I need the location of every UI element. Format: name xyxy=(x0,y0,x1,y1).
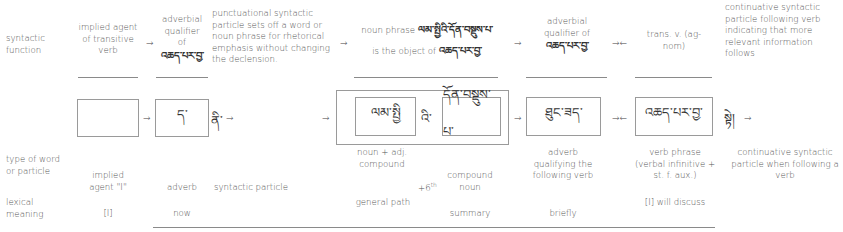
box-verb-will-discuss-text: འཆད་པར་བྱ་ xyxy=(645,98,703,135)
meaning-summary: summary xyxy=(440,208,500,220)
arrow-right-icon: → xyxy=(322,113,330,123)
function-noun-phrase-line1: noun phrase ལམ་སྤྱིའི་དོན་བསྡུས་པ་ xyxy=(352,24,502,37)
box-adverb-briefly-text: ཐུང་ཟད་ xyxy=(545,98,583,135)
noun-phrase-tibetan: ལམ་སྤྱིའི་དོན་བསྡུས་པ་ xyxy=(418,24,493,35)
function-punctuational-particle: punctuational syntactic particle sets of… xyxy=(212,8,336,66)
box-adverb-now: ད་ xyxy=(155,99,209,137)
row-label-lexical-meaning: lexical meaning xyxy=(6,197,66,220)
noun-phrase-label: noun phrase xyxy=(361,25,415,35)
box-implied-agent xyxy=(77,99,139,137)
object-of-tibetan: འཆད་པར་བྱ་ xyxy=(439,45,482,56)
bottom-rule xyxy=(153,227,715,228)
underline-col5 xyxy=(526,77,607,78)
function-continuative-particle: continuative syntactic particle followin… xyxy=(725,2,840,60)
box-summary: དོན་བསྡུས་པ་ xyxy=(442,97,501,136)
particle-ni: ནི་ xyxy=(211,106,223,143)
row-label-type-of-word: type of word or particle xyxy=(6,154,66,177)
box-adverb-briefly: ཐུང་ཟད་ xyxy=(526,97,601,136)
underline-col6 xyxy=(635,77,712,78)
underline-col1 xyxy=(78,77,138,78)
type-implied-agent: implied agent "I" xyxy=(82,170,134,193)
row-label-syntactic-function: syntactic function xyxy=(6,33,66,56)
function-noun-phrase: noun phrase ལམ་སྤྱིའི་དོན་བསྡུས་པ་ is th… xyxy=(352,24,502,57)
meaning-now: now xyxy=(160,208,204,220)
type-continuative-particle: continuative syntactic particle when fol… xyxy=(730,147,840,182)
arrow-right-icon: → xyxy=(340,38,348,48)
type-noun-adj-compound: noun + adj. compound xyxy=(350,147,414,170)
function-noun-phrase-line2: is the object of འཆད་པར་བྱ་ xyxy=(352,45,502,58)
meaning-general-path: general path xyxy=(355,197,411,209)
arrow-right-left-icon: →← xyxy=(612,38,627,48)
type-genitive-marker: +6th xyxy=(418,181,437,193)
meaning-i: [I] xyxy=(92,208,124,220)
type-syntactic-particle: syntactic particle xyxy=(214,182,314,194)
function-adverbial-qualifier: adverbial qualifier of འཆད་པར་བྱ་ xyxy=(152,14,212,61)
object-of-label: is the object of xyxy=(372,46,436,56)
particle-ste: སྟེ། xyxy=(724,104,735,141)
arrow-right-icon: → xyxy=(744,113,752,123)
function-adverbial-qualifier-2-text: adverbial qualifier of xyxy=(534,16,600,39)
box-general-path: ལམ་སྤྱི xyxy=(355,97,416,136)
arrow-right-icon: → xyxy=(514,113,522,123)
function-adverbial-qualifier-tibetan: འཆད་པར་བྱ་ xyxy=(152,50,212,62)
function-trans-verb: trans. v. (ag-nom) xyxy=(642,29,706,52)
type-verb-phrase: verb phrase (verbal infinitive + st. f. … xyxy=(634,147,716,182)
arrow-right-icon: → xyxy=(143,113,151,123)
meaning-will-discuss: [I] will discuss xyxy=(640,197,710,209)
box-general-path-text: ལམ་སྤྱི xyxy=(371,98,401,135)
type-compound-noun: compound noun xyxy=(440,170,500,193)
function-adverbial-qualifier-2: adverbial qualifier of འཆད་པར་བྱ་ xyxy=(522,16,612,52)
meaning-briefly: briefly xyxy=(530,208,596,220)
box-verb-will-discuss: འཆད་པར་བྱ་ xyxy=(635,97,713,136)
box-adverb-now-text: ད་ xyxy=(177,100,188,137)
box-summary-text: དོན་བསྡུས་པ་ xyxy=(443,80,500,154)
underline-col4 xyxy=(354,77,498,78)
underline-col2 xyxy=(156,77,208,78)
arrow-right-icon: → xyxy=(226,113,234,123)
function-adverbial-qualifier-2-tibetan: འཆད་པར་བྱ་ xyxy=(522,40,612,52)
function-adverbial-qualifier-text: adverbial qualifier of xyxy=(159,14,205,49)
function-implied-agent: implied agent of transitive verb xyxy=(76,22,140,57)
type-adverb-qualifying: adverb qualifying the following verb xyxy=(530,147,596,182)
genitive-particle: འི་ xyxy=(421,104,432,141)
type-adverb: adverb xyxy=(160,182,204,194)
arrow-right-left-icon: →← xyxy=(612,113,627,123)
arrow-right-icon: → xyxy=(514,38,522,48)
